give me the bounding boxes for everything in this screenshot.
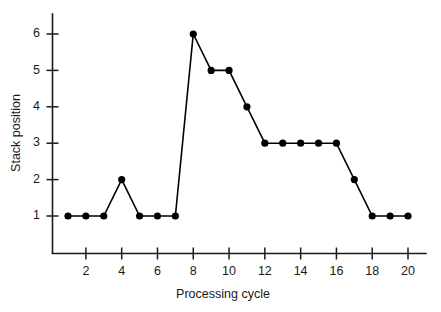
x-axis-title: Processing cycle (176, 287, 270, 301)
y-axis-tick-label: 2 (33, 172, 40, 186)
data-point (261, 140, 268, 147)
data-point (333, 140, 340, 147)
stack-position-line-chart: 123456 2468101214161820 Processing cycle… (0, 0, 441, 312)
data-point (297, 140, 304, 147)
y-axis-tick-label: 1 (33, 208, 40, 222)
data-point (279, 140, 286, 147)
data-point (208, 67, 215, 74)
data-point (190, 30, 197, 37)
x-axis-tick-label: 6 (154, 264, 161, 278)
x-axis-tick-label: 18 (365, 264, 379, 278)
x-axis-tick-label: 8 (190, 264, 197, 278)
y-axis-tick-label: 4 (33, 99, 40, 113)
y-axis-tick-label: 6 (33, 26, 40, 40)
x-axis-tick-label: 12 (258, 264, 272, 278)
data-point (64, 212, 71, 219)
x-axis-tick-label: 16 (329, 264, 343, 278)
data-point (118, 176, 125, 183)
y-axis-tick-label: 5 (33, 63, 40, 77)
data-point (243, 103, 250, 110)
y-axis-tick-label: 3 (33, 135, 40, 149)
data-point (404, 212, 411, 219)
data-point (82, 212, 89, 219)
data-point (369, 212, 376, 219)
x-axis-tick-label: 10 (222, 264, 236, 278)
y-axis-title: Stack position (9, 94, 23, 172)
x-axis-tick-label: 2 (82, 264, 89, 278)
data-point (315, 140, 322, 147)
data-point (387, 212, 394, 219)
chart-container: 123456 2468101214161820 Processing cycle… (0, 0, 441, 312)
data-point (136, 212, 143, 219)
x-axis-tick-label: 4 (118, 264, 125, 278)
data-point (351, 176, 358, 183)
x-axis-tick-label: 14 (294, 264, 308, 278)
data-point (100, 212, 107, 219)
data-point (154, 212, 161, 219)
x-axis-tick-label: 20 (401, 264, 415, 278)
data-point (225, 67, 232, 74)
data-point (172, 212, 179, 219)
